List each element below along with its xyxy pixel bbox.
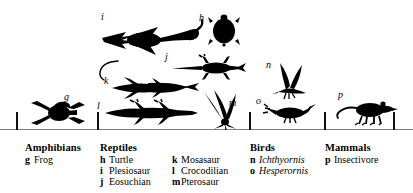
legend-key-n: n: [250, 154, 259, 165]
legend-name-h: Turtle: [109, 154, 133, 165]
legend-column-mammals: Mammals pInsectivore: [325, 142, 378, 165]
legend-entry-n: nIchthyornis: [250, 154, 308, 165]
legend-column-reptiles: Reptiles hTurtle iPlesiosaur jEosuchian: [100, 142, 151, 187]
legend-entry-h: hTurtle: [100, 154, 151, 165]
legend-key-h: h: [100, 154, 109, 165]
legend-name-o: Hesperornis: [259, 165, 308, 176]
legend-entry-i: iPlesiosaur: [100, 165, 151, 176]
silhouette-tag-i: i: [101, 12, 104, 22]
legend-key-g: g: [25, 154, 34, 165]
turtle-silhouette: [206, 13, 242, 47]
legend-entry-o: oHesperornis: [250, 165, 308, 176]
legend-key-j: j: [100, 176, 109, 187]
legend-heading-mammals: Mammals: [325, 142, 378, 154]
legend-name-m: Pterosaur: [181, 176, 219, 187]
baseline-rule: [0, 129, 413, 130]
bracket-tick-amphibians-left: [16, 112, 18, 130]
legend-column-birds: Birds nIchthyornis oHesperornis: [250, 142, 308, 176]
silhouette-tag-m: m: [229, 98, 236, 108]
legend-name-g: Frog: [34, 154, 53, 165]
bracket-tick-birds-right: [324, 112, 326, 130]
legend-entry-g: gFrog: [25, 154, 81, 165]
mosasaur-silhouette: [110, 74, 200, 102]
legend-key-l: l: [172, 165, 181, 176]
bracket-tick-reptiles-right: [249, 112, 251, 130]
legend-column-reptiles-continued: kMosasaur lCrocodilian mPterosaur: [172, 154, 228, 188]
legend-key-k: k: [172, 154, 181, 165]
legend-name-p: Insectivore: [334, 154, 378, 165]
legend-entry-j: jEosuchian: [100, 176, 151, 187]
legend-name-j: Eosuchian: [109, 176, 151, 187]
legend: Amphibians gFrog Reptiles hTurtle iPlesi…: [0, 142, 413, 193]
legend-name-l: Crocodilian: [181, 165, 228, 176]
vertebrate-silhouette-figure: i h: [0, 0, 413, 193]
ichthyornis-silhouette: [272, 62, 308, 102]
legend-entry-l: lCrocodilian: [172, 165, 228, 176]
legend-column-amphibians: Amphibians gFrog: [25, 142, 81, 165]
silhouette-tag-g: g: [64, 92, 69, 102]
legend-key-i: i: [100, 165, 109, 176]
legend-name-k: Mosasaur: [181, 154, 220, 165]
legend-entry-m: mPterosaur: [172, 176, 228, 187]
legend-heading-reptiles: Reptiles: [100, 142, 151, 154]
silhouette-tag-p: p: [338, 90, 343, 100]
bracket-tick-amphibians-right: [97, 112, 99, 130]
silhouette-tag-n: n: [266, 60, 271, 70]
legend-entry-k: kMosasaur: [172, 154, 228, 165]
legend-key-o: o: [250, 165, 259, 176]
plesiosaur-silhouette: [92, 18, 210, 60]
legend-key-m: m: [172, 176, 181, 187]
silhouette-tag-j: j: [165, 52, 168, 62]
silhouette-tag-l: l: [97, 101, 100, 111]
legend-name-i: Plesiosaur: [109, 165, 150, 176]
silhouette-tag-h: h: [199, 13, 204, 23]
legend-heading-amphibians: Amphibians: [25, 142, 81, 154]
bracket-tick-mammals-right: [393, 112, 395, 130]
mosasaur-leader-line: [96, 60, 122, 82]
legend-key-p: p: [325, 154, 334, 165]
legend-heading-birds: Birds: [250, 142, 308, 154]
bracket-rules: [0, 112, 413, 134]
silhouette-tag-o: o: [256, 96, 261, 106]
legend-name-n: Ichthyornis: [259, 154, 305, 165]
legend-entry-p: pInsectivore: [325, 154, 378, 165]
